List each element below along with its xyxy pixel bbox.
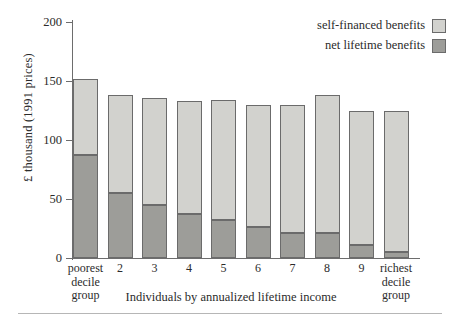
- bar-segment-net-lifetime-5[interactable]: [211, 220, 236, 258]
- y-tick-label-100: 100: [30, 134, 62, 146]
- footer-rule: [18, 313, 442, 314]
- y-tick-200: [66, 22, 72, 23]
- y-tick-label-200: 200: [30, 16, 62, 28]
- bar-segment-self-financed-5[interactable]: [211, 100, 236, 220]
- y-tick-50: [66, 199, 72, 200]
- bar-segment-self-financed-6[interactable]: [246, 105, 271, 228]
- bar-segment-self-financed-2[interactable]: [108, 95, 133, 193]
- y-tick-label-50: 50: [30, 193, 62, 205]
- x-label-line: richest: [368, 262, 424, 276]
- x-axis-caption: Individuals by annualized lifetime incom…: [100, 290, 362, 305]
- chart-figure: self-financed benefits net lifetime bene…: [0, 0, 458, 323]
- bar-segment-net-lifetime-2[interactable]: [108, 193, 133, 258]
- y-tick-150: [66, 81, 72, 82]
- x-label-line: decile: [58, 276, 114, 290]
- x-label-line: group: [368, 289, 424, 303]
- x-axis-line: [72, 258, 420, 259]
- bar-segment-self-financed-1[interactable]: [73, 79, 98, 156]
- bar-segment-net-lifetime-3[interactable]: [142, 205, 167, 258]
- bar-segment-net-lifetime-9[interactable]: [349, 245, 374, 258]
- bar-3[interactable]: [142, 98, 167, 258]
- bar-9[interactable]: [349, 111, 374, 259]
- y-tick-label-150: 150: [30, 75, 62, 87]
- bars-area: [73, 22, 418, 258]
- y-tick-0: [66, 258, 72, 259]
- bar-segment-net-lifetime-8[interactable]: [315, 233, 340, 258]
- x-label-10: richestdecilegroup: [368, 262, 424, 303]
- bar-2[interactable]: [108, 95, 133, 258]
- y-tick-100: [66, 140, 72, 141]
- bar-10[interactable]: [384, 111, 409, 259]
- legend-swatch-net-lifetime-icon: [432, 39, 446, 53]
- legend-swatch-self-financed-icon: [432, 19, 446, 33]
- bar-segment-self-financed-3[interactable]: [142, 98, 167, 205]
- bar-segment-net-lifetime-7[interactable]: [280, 233, 305, 258]
- bar-segment-self-financed-4[interactable]: [177, 101, 202, 214]
- bar-segment-self-financed-9[interactable]: [349, 111, 374, 246]
- bar-segment-net-lifetime-6[interactable]: [246, 227, 271, 258]
- bar-6[interactable]: [246, 105, 271, 258]
- bar-1[interactable]: [73, 79, 98, 258]
- bar-8[interactable]: [315, 95, 340, 258]
- bar-segment-net-lifetime-1[interactable]: [73, 155, 98, 258]
- bar-segment-self-financed-10[interactable]: [384, 111, 409, 253]
- bar-7[interactable]: [280, 105, 305, 258]
- bar-segment-self-financed-7[interactable]: [280, 105, 305, 234]
- bar-4[interactable]: [177, 101, 202, 258]
- bar-segment-self-financed-8[interactable]: [315, 95, 340, 233]
- x-label-line: decile: [368, 276, 424, 290]
- bar-segment-net-lifetime-4[interactable]: [177, 214, 202, 258]
- bar-segment-net-lifetime-10[interactable]: [384, 252, 409, 258]
- y-axis-title: £ thousand (1991 prices): [21, 23, 36, 213]
- bar-5[interactable]: [211, 100, 236, 258]
